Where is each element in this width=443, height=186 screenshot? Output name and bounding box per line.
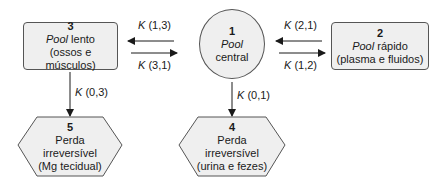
label-k03-idx: (0,3) <box>82 86 108 98</box>
node-5-number: 5 <box>67 121 73 134</box>
label-k01: K (0,1) <box>237 89 270 101</box>
node-3-slow-pool: 3 Pool lento (ossos e músculos) <box>23 22 118 70</box>
label-k13: K (1,3) <box>138 19 171 31</box>
label-k12: K (1,2) <box>284 59 317 71</box>
compartment-model-diagram: 3 Pool lento (ossos e músculos) 1 Pool c… <box>0 0 443 186</box>
node-1-subtitle: central <box>215 51 248 64</box>
node-3-title-italic: Pool <box>46 33 68 45</box>
node-4-line2: irreversível <box>205 147 259 160</box>
label-k21-idx: (2,1) <box>291 19 317 31</box>
label-k12-idx: (1,2) <box>291 59 317 71</box>
node-3-subtitle: (ossos e músculos) <box>24 46 117 72</box>
node-2-fast-pool: 2 Pool rápido (plasma e fluidos) <box>331 22 429 70</box>
node-3-title-rest: lento <box>68 33 95 45</box>
node-4-line3: (urina e fezes) <box>197 160 267 173</box>
node-4-excretion-loss: 4 Perda irreversível (urina e fezes) <box>187 118 277 176</box>
node-5-tissue-loss: 5 Perda irreversível (Mg tecidual) <box>30 118 110 176</box>
node-4-line1: Perda <box>217 134 246 147</box>
node-1-number: 1 <box>229 25 235 38</box>
label-k13-idx: (1,3) <box>145 19 171 31</box>
node-2-subtitle: (plasma e fluidos) <box>337 53 424 66</box>
node-5-line1: Perda <box>55 134 84 147</box>
node-2-title: Pool rápido <box>352 40 408 53</box>
node-3-title: Pool lento <box>46 33 95 46</box>
node-1-central-pool: 1 Pool central <box>199 9 265 79</box>
node-3-number: 3 <box>67 20 73 33</box>
label-k31-idx: (3,1) <box>145 59 171 71</box>
node-1-title: Pool <box>221 38 243 51</box>
label-k21: K (2,1) <box>284 19 317 31</box>
label-k01-idx: (0,1) <box>244 89 270 101</box>
node-2-title-rest: rápido <box>374 40 408 52</box>
label-k31: K (3,1) <box>138 59 171 71</box>
node-2-title-italic: Pool <box>352 40 374 52</box>
node-5-line2: irreversível <box>43 147 97 160</box>
node-4-number: 4 <box>229 121 235 134</box>
label-k03: K (0,3) <box>75 86 108 98</box>
node-5-line3: (Mg tecidual) <box>38 160 102 173</box>
node-2-number: 2 <box>377 27 383 40</box>
